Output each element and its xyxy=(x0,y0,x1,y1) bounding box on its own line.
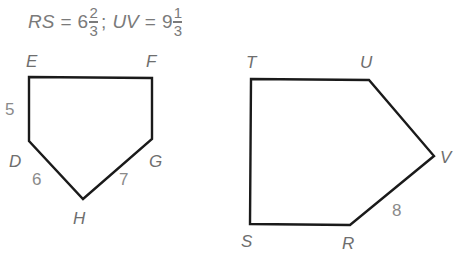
side-length-gh: 7 xyxy=(119,170,128,189)
pentagon-rstuv xyxy=(250,79,434,225)
vertex-label-e: E xyxy=(26,52,38,71)
vertex-label-v: V xyxy=(440,148,453,167)
vertex-label-t: T xyxy=(246,53,258,72)
vertex-label-h: H xyxy=(73,209,86,228)
vertex-label-u: U xyxy=(360,53,373,72)
side-length-dh: 6 xyxy=(32,170,41,189)
vertex-label-r: R xyxy=(342,234,354,253)
side-length-rv: 8 xyxy=(392,201,401,220)
pentagon-defgh xyxy=(29,77,152,199)
vertex-label-s: S xyxy=(241,232,253,251)
side-length-de: 5 xyxy=(5,100,14,119)
vertex-label-g: G xyxy=(149,152,162,171)
diagram-canvas: RS = 6 2 3 ; UV = 9 1 3 E F G H D 5 6 xyxy=(0,0,457,259)
vertex-label-f: F xyxy=(146,52,158,71)
polygons-figure: E F G H D 5 6 7 T U V R S 8 xyxy=(0,0,457,259)
vertex-label-d: D xyxy=(9,152,21,171)
